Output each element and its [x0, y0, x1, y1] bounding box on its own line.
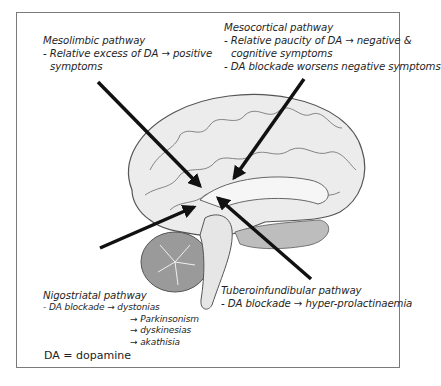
mesocortical-line-1: - Relative paucity of DA → negative &	[224, 34, 441, 47]
mesolimbic-line-2: symptoms	[43, 60, 212, 73]
mesocortical-line-3: - DA blockade worsens negative symptoms	[224, 60, 441, 73]
label-tuberoinfundibular: Tuberoinfundibular pathway - DA blockade…	[221, 284, 412, 310]
label-mesolimbic: Mesolimbic pathway - Relative excess of …	[43, 34, 212, 73]
tuberoinfundibular-title: Tuberoinfundibular pathway	[221, 284, 412, 297]
mesocortical-title: Mesocortical pathway	[224, 21, 441, 34]
nigrostriatal-akathisia: → akathisia	[43, 337, 199, 349]
nigrostriatal-title: Nigostriatal pathway	[43, 289, 199, 302]
label-mesocortical: Mesocortical pathway - Relative paucity …	[224, 21, 441, 73]
nigrostriatal-parkinsonism: → Parkinsonism	[43, 314, 199, 326]
mesolimbic-title: Mesolimbic pathway	[43, 34, 212, 47]
nigrostriatal-line-1: - DA blockade → dystonias	[43, 302, 199, 314]
nigrostriatal-dyskinesias: → dyskinesias	[43, 325, 199, 337]
mesocortical-line-2: cognitive symptoms	[224, 47, 441, 60]
legend-da-dopamine: DA = dopamine	[44, 349, 131, 362]
label-nigrostriatal: Nigostriatal pathway - DA blockade → dys…	[43, 289, 199, 348]
tuberoinfundibular-line-1: - DA blockade → hyper-prolactinaemia	[221, 297, 412, 310]
cerebrum	[129, 94, 365, 237]
mesolimbic-line-1: - Relative excess of DA → positive	[43, 47, 212, 60]
